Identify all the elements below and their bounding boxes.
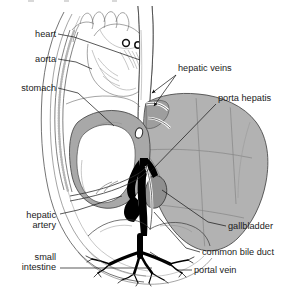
- diagram-canvas: heart aorta stomach hepatic artery small…: [0, 0, 286, 287]
- label-heart: heart: [35, 29, 56, 39]
- label-stomach: stomach: [21, 83, 56, 93]
- label-common-bile-duct: common bile duct: [202, 247, 274, 257]
- label-small-intestine-line1: small: [35, 252, 56, 262]
- leader-hepatic-veins-1: [152, 75, 176, 93]
- label-aorta: aorta: [35, 54, 57, 64]
- label-hepatic-artery-line2: artery: [33, 220, 57, 230]
- great-vessel-openings: [123, 40, 142, 49]
- label-hepatic-veins: hepatic veins: [178, 63, 232, 73]
- label-small-intestine-line2: intestine: [22, 262, 56, 272]
- label-portal-vein: portal vein: [194, 265, 236, 275]
- label-porta-hepatis: porta hepatis: [218, 93, 272, 103]
- label-hepatic-artery-line1: hepatic: [26, 210, 56, 220]
- top-cropped-text: [28, 0, 117, 2]
- rib-cartilage: [73, 12, 129, 42]
- label-gallbladder: gallbladder: [228, 221, 273, 231]
- anatomy-diagram: heart aorta stomach hepatic artery small…: [0, 0, 286, 287]
